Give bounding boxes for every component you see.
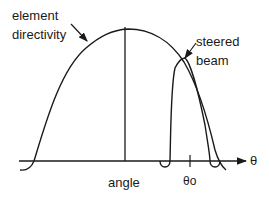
element-directivity-label-line2: directivity: [12, 27, 66, 42]
theta-axis-label: θ: [250, 153, 257, 168]
element-directivity-curve: [20, 29, 226, 170]
element-directivity-label-line1: element: [12, 8, 58, 23]
element-directivity-pointer: [71, 24, 87, 41]
steered-beam-label-line1: steered: [196, 34, 239, 49]
steered-beam-label-line2: beam: [196, 53, 229, 68]
theta-zero-label: θo: [183, 174, 196, 189]
steered-beam-pointer: [185, 43, 196, 58]
angle-axis-label: angle: [108, 175, 140, 190]
